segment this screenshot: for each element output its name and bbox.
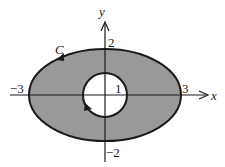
tick-label-y-pos: 2	[108, 35, 115, 50]
tick-label-inner-radius: 1	[115, 81, 122, 96]
y-axis-label: y	[97, 4, 105, 19]
tick-label-y-neg: −2	[106, 145, 120, 160]
curve-label: C	[55, 42, 64, 57]
tick-label-x-pos: 3	[182, 81, 189, 96]
x-axis-label: x	[210, 88, 217, 103]
region-diagram: y x 2 −2 3 −3 1 C	[0, 0, 225, 167]
tick-label-x-neg: −3	[10, 81, 24, 96]
